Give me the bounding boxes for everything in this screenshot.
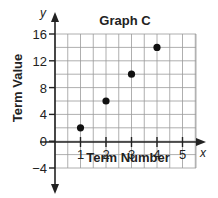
x-tick-label: 1 [77,147,84,162]
x-axis-right-arrow-icon [196,138,206,146]
y-tick-label: 0 [40,134,47,149]
data-point [102,97,109,104]
x-axis-label: Term Number [86,150,170,165]
y-tick-label: 4 [40,107,47,122]
y-tick-label: 16 [33,27,47,42]
data-point [153,44,160,51]
y-tick-label: 12 [33,54,47,69]
y-axis-down-arrow-icon [51,184,59,194]
y-axis-up-arrow-icon [51,12,59,22]
y-axis-label: Term Value [10,54,25,122]
data-point [128,71,135,78]
x-variable-label: x [199,146,207,160]
axes [40,12,206,194]
graph-c-chart: 123451612840−4 Graph C Term Number Term … [0,0,218,198]
chart-title: Graph C [99,13,151,28]
y-tick-label: 8 [40,81,47,96]
data-point [77,124,84,131]
y-variable-label: y [39,6,47,20]
y-tick-label: −4 [32,161,47,176]
x-tick-label: 5 [179,147,186,162]
